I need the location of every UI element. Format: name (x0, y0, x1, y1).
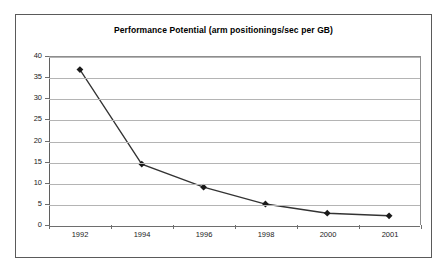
x-tick-mark-4 (297, 225, 298, 229)
gridline-5 (49, 205, 420, 206)
x-tick-label-1998: 1998 (246, 230, 286, 239)
y-tick-mark-20 (45, 141, 49, 142)
y-tick-label-15: 15 (16, 158, 42, 166)
chart-frame: Performance Potential (arm positionings/… (15, 14, 432, 258)
gridline-35 (49, 78, 420, 79)
y-tick-label-30: 30 (16, 94, 42, 102)
x-tick-mark-6 (421, 225, 422, 229)
gridline-10 (49, 184, 420, 185)
x-tick-mark-2 (173, 225, 174, 229)
y-tick-label-40: 40 (16, 52, 42, 60)
chart-title: Performance Potential (arm positionings/… (16, 25, 431, 35)
y-tick-label-25: 25 (16, 115, 42, 123)
x-tick-label-2000: 2000 (308, 230, 348, 239)
y-tick-mark-35 (45, 77, 49, 78)
y-tick-label-20: 20 (16, 137, 42, 145)
series-line-0 (80, 70, 389, 216)
gridline-15 (49, 163, 420, 164)
x-tick-label-1994: 1994 (122, 230, 162, 239)
x-tick-mark-5 (359, 225, 360, 229)
y-tick-label-5: 5 (16, 200, 42, 208)
y-tick-mark-15 (45, 162, 49, 163)
y-tick-mark-10 (45, 183, 49, 184)
data-point-1992 (77, 66, 84, 73)
x-tick-label-1992: 1992 (60, 230, 100, 239)
y-tick-mark-30 (45, 98, 49, 99)
y-tick-label-10: 10 (16, 179, 42, 187)
y-tick-mark-5 (45, 204, 49, 205)
gridline-40 (49, 57, 420, 58)
gridline-20 (49, 142, 420, 143)
y-tick-label-35: 35 (16, 73, 42, 81)
y-tick-label-0: 0 (16, 221, 42, 229)
x-tick-mark-0 (49, 225, 50, 229)
plot-area (49, 56, 421, 225)
y-tick-mark-25 (45, 119, 49, 120)
y-tick-mark-40 (45, 56, 49, 57)
x-tick-mark-3 (235, 225, 236, 229)
gridline-30 (49, 99, 420, 100)
gridline-25 (49, 120, 420, 121)
x-tick-label-1996: 1996 (184, 230, 224, 239)
data-point-1996 (200, 184, 207, 191)
x-tick-mark-1 (111, 225, 112, 229)
x-tick-label-2001: 2001 (370, 230, 410, 239)
data-point-2000 (324, 210, 331, 217)
data-point-2001 (386, 212, 393, 219)
